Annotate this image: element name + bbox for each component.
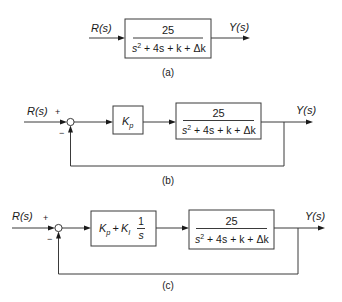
panel-caption: (c) bbox=[162, 280, 174, 291]
panel-b: R(s) + − Kp 25 s2 + 4s + k + Δk Y(s) (b) bbox=[24, 103, 317, 186]
plant-denominator: s2 + 4s + k + Δk bbox=[132, 42, 206, 54]
minus-sign: − bbox=[47, 234, 52, 244]
arrow-head-icon bbox=[182, 226, 189, 231]
input-label: R(s) bbox=[12, 210, 33, 222]
plant-numerator: 25 bbox=[162, 24, 174, 36]
arrow-head-icon bbox=[118, 36, 125, 41]
panel-c: R(s) + − Kp+KI 1 s 25 s2 + 4s + k + Δk Y… bbox=[12, 210, 326, 291]
plant-numerator: 25 bbox=[212, 107, 224, 119]
output-label: Y(s) bbox=[229, 21, 250, 33]
arrow-head-icon bbox=[60, 120, 67, 125]
plus-sign: + bbox=[55, 107, 60, 117]
plant-numerator: 25 bbox=[225, 215, 237, 227]
arrow-head-icon bbox=[56, 232, 61, 239]
panel-caption: (a) bbox=[162, 67, 174, 78]
arrow-head-icon bbox=[84, 226, 91, 231]
input-label: R(s) bbox=[27, 105, 48, 117]
arrow-head-icon bbox=[243, 36, 250, 41]
input-label: R(s) bbox=[91, 22, 112, 34]
output-label: Y(s) bbox=[305, 210, 326, 222]
summing-junction bbox=[55, 224, 62, 231]
integral-fraction-numerator: 1 bbox=[138, 216, 144, 227]
panel-a: R(s) 25 s2 + 4s + k + Δk Y(s) (a) bbox=[89, 19, 250, 78]
arrow-head-icon bbox=[318, 226, 325, 231]
arrow-head-icon bbox=[306, 120, 313, 125]
plant-denominator: s2 + 4s + k + Δk bbox=[182, 124, 256, 136]
panel-caption: (b) bbox=[162, 175, 174, 186]
arrow-head-icon bbox=[169, 120, 176, 125]
arrow-head-icon bbox=[68, 126, 73, 133]
arrow-head-icon bbox=[106, 120, 113, 125]
arrow-head-icon bbox=[48, 226, 55, 231]
integral-fraction-denominator: s bbox=[138, 229, 144, 241]
output-label: Y(s) bbox=[296, 104, 317, 116]
plus-sign: + bbox=[43, 213, 48, 223]
plant-denominator: s2 + 4s + k + Δk bbox=[195, 233, 269, 245]
minus-sign: − bbox=[59, 128, 64, 138]
summing-junction bbox=[67, 118, 74, 125]
block-diagram-figure: R(s) 25 s2 + 4s + k + Δk Y(s) (a) R(s) +… bbox=[0, 0, 342, 302]
